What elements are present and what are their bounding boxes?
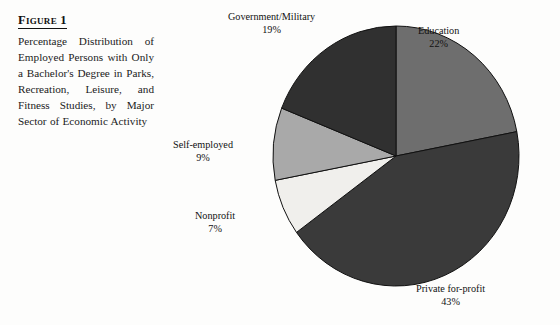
figure-caption-text: Percentage Distribution of Employed Pers… (18, 33, 154, 129)
pie-label-private-for-profit: Private for-profit 43% (416, 282, 485, 309)
pie-label-self-employed-name: Self-employed (173, 139, 233, 150)
pie-label-government-military-name: Government/Military (228, 11, 315, 22)
figure-number-label: Figure 1 (18, 13, 67, 29)
pie-label-private-for-profit-value: 43% (416, 295, 485, 308)
pie-chart-area: Government/Military 19% Education 22% Pr… (160, 0, 560, 325)
figure-caption-block: Figure 1 Percentage Distribution of Empl… (18, 10, 154, 129)
figure-root: Figure 1 Percentage Distribution of Empl… (0, 0, 560, 325)
pie-label-nonprofit: Nonprofit 7% (195, 209, 235, 236)
pie-slices (273, 26, 519, 286)
pie-label-government-military: Government/Military 19% (228, 10, 315, 37)
pie-label-self-employed-value: 9% (173, 151, 233, 164)
pie-label-education-name: Education (418, 25, 459, 36)
pie-label-self-employed: Self-employed 9% (173, 138, 233, 165)
pie-label-nonprofit-name: Nonprofit (195, 210, 235, 221)
pie-label-education-value: 22% (418, 37, 459, 50)
pie-label-private-for-profit-name: Private for-profit (416, 283, 485, 294)
pie-label-government-military-value: 19% (228, 23, 315, 36)
pie-label-education: Education 22% (418, 24, 459, 51)
pie-label-nonprofit-value: 7% (195, 222, 235, 235)
